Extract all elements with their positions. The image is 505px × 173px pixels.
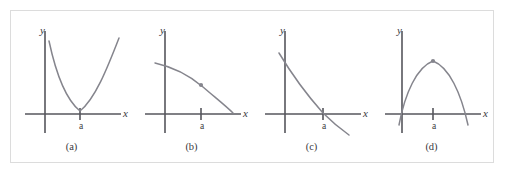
- x-axis-label-b: x: [243, 108, 248, 119]
- caption-panel-b: (b): [131, 142, 252, 153]
- marked-point-b: [199, 83, 203, 87]
- tick-label-a-panel-b: a: [196, 122, 208, 132]
- tick-label-a-panel-c: a: [318, 122, 330, 132]
- tick-label-a-panel-a: a: [75, 122, 87, 132]
- x-axis-label-c: x: [363, 108, 368, 119]
- tick-label-a-panel-d: a: [428, 122, 440, 132]
- caption-panel-a: (a): [11, 142, 132, 153]
- curve-c: [279, 53, 349, 135]
- curve-a: [49, 38, 119, 111]
- caption-panel-d: (d): [371, 142, 492, 153]
- panel-b: y x a (b): [131, 11, 252, 164]
- y-axis-label-a: y: [40, 25, 45, 36]
- figure-frame: y x a (a) y x a (b) y x a (c): [10, 10, 494, 163]
- y-axis-label-b: y: [160, 25, 165, 36]
- caption-panel-c: (c): [251, 142, 372, 153]
- curve-b: [155, 63, 233, 113]
- y-axis-label-d: y: [397, 25, 402, 36]
- panel-d: y x a (d): [371, 11, 492, 164]
- x-axis-label-d: x: [483, 108, 488, 119]
- panel-c: y x a (c): [251, 11, 372, 164]
- x-axis-label-a: x: [123, 108, 128, 119]
- marked-point-d: [431, 59, 435, 63]
- y-axis-label-c: y: [280, 25, 285, 36]
- panel-a: y x a (a): [11, 11, 132, 164]
